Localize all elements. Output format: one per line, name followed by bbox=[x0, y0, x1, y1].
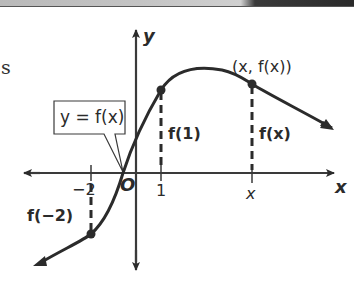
y-axis-label: y bbox=[143, 25, 156, 46]
tick-label-x: x bbox=[245, 184, 256, 203]
origin-label: O bbox=[120, 174, 135, 195]
tick-label-1: 1 bbox=[156, 181, 166, 200]
function-curve bbox=[40, 68, 332, 263]
point-f1 bbox=[157, 86, 166, 95]
function-graph: y x O −2 1 x (x, f(x)) f(1) f(x) f(−2) y… bbox=[0, 0, 354, 283]
label-fx: f(x) bbox=[259, 124, 291, 143]
curve-left-arrow-icon bbox=[33, 256, 47, 266]
x-axis-label: x bbox=[334, 176, 348, 197]
label-f1: f(1) bbox=[168, 124, 201, 143]
tick-label-neg2: −2 bbox=[72, 180, 96, 199]
callout-label: y = f(x) bbox=[60, 107, 124, 127]
point-label-x-fx: (x, f(x)) bbox=[232, 57, 292, 76]
label-f-neg2: f(−2) bbox=[27, 206, 73, 225]
point-f-neg2 bbox=[87, 230, 96, 239]
point-x-fx bbox=[248, 80, 257, 89]
